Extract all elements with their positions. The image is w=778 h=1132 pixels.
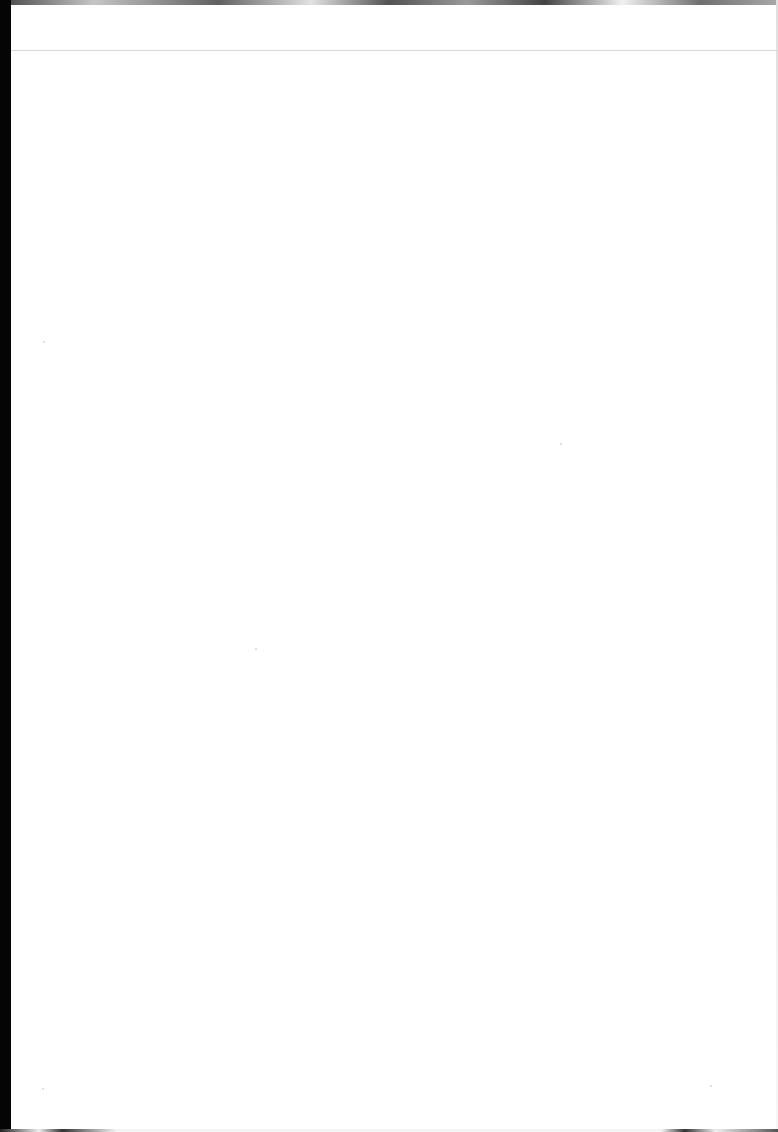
scan-speck <box>255 648 257 650</box>
scan-speck <box>710 1085 712 1087</box>
scan-speck <box>43 341 45 343</box>
scan-speck <box>560 443 562 445</box>
scan-left-edge <box>0 0 11 1132</box>
scan-top-edge <box>0 0 778 5</box>
scan-speck <box>42 1088 44 1090</box>
blank-page-body <box>11 51 776 1129</box>
